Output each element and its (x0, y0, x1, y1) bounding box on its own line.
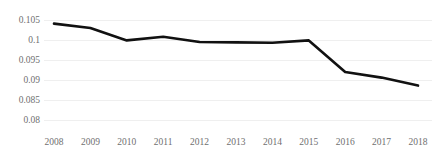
x-tick-label: 2017 (372, 131, 391, 153)
x-tick-label: 2016 (336, 131, 355, 153)
x-axis-tick-labels: 2008200920102011201220132014201520162017… (44, 131, 432, 153)
x-tick-label: 2009 (81, 131, 100, 153)
data-series-line (44, 0, 432, 130)
series-1-polyline (54, 24, 418, 86)
y-tick-label: 0.09 (0, 75, 40, 85)
y-tick-label: 0.08 (0, 115, 40, 125)
x-tick-label: 2008 (45, 131, 64, 153)
x-tick-label: 2013 (227, 131, 246, 153)
x-tick-label: 2012 (190, 131, 209, 153)
plot-area (44, 0, 432, 130)
x-tick-label: 2011 (154, 131, 173, 153)
y-tick-label: 0.105 (0, 15, 40, 25)
x-tick-label: 2014 (263, 131, 282, 153)
y-tick-label: 0.085 (0, 95, 40, 105)
y-tick-label: 0.1 (0, 35, 40, 45)
x-tick-label: 2015 (299, 131, 318, 153)
y-tick-label: 0.095 (0, 55, 40, 65)
x-tick-label: 2018 (409, 131, 428, 153)
y-axis-tick-labels: 0.1050.10.0950.090.0850.08 (0, 0, 40, 130)
line-chart: 0.1050.10.0950.090.0850.08 2008200920102… (0, 0, 432, 153)
x-tick-label: 2010 (117, 131, 136, 153)
